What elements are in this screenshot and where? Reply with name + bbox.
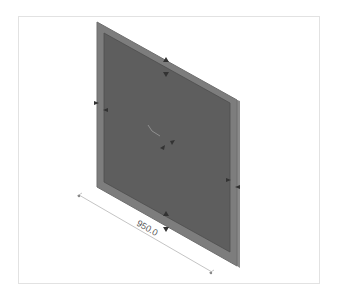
grip-arrow-bottom-out xyxy=(163,227,169,232)
dimension-endpoint-start xyxy=(78,195,80,197)
panel-drawing xyxy=(0,0,337,301)
dimension-endpoint-end xyxy=(210,272,212,274)
